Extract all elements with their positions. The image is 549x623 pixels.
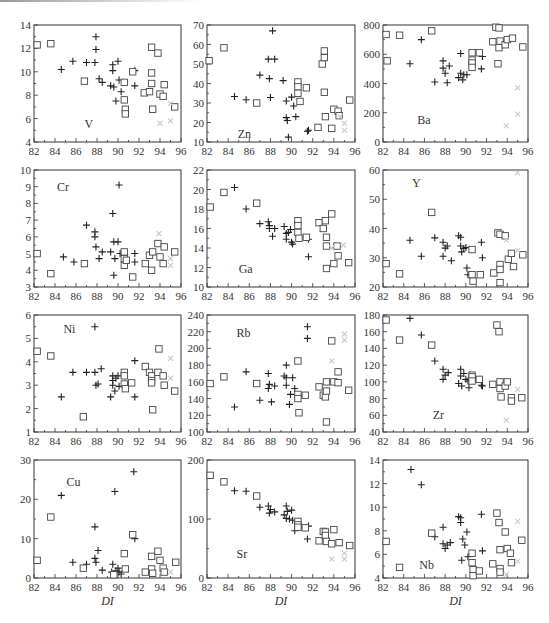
y-tick-label: 60 xyxy=(369,164,381,176)
square-marker xyxy=(316,384,322,390)
square-marker xyxy=(396,564,402,570)
x-tick-label: 90 xyxy=(286,435,298,447)
y-tick-label: 180 xyxy=(364,309,381,321)
square-marker xyxy=(157,557,163,563)
plus-marker xyxy=(231,487,238,494)
square-marker xyxy=(161,569,167,575)
x-marker xyxy=(342,332,347,337)
y-tick-label: 30 xyxy=(20,454,32,466)
plus-marker xyxy=(131,357,138,364)
square-marker xyxy=(335,369,341,375)
square-marker xyxy=(496,519,502,525)
plus-marker xyxy=(231,184,238,191)
plus-marker xyxy=(431,234,438,241)
y-tick-label: 10 xyxy=(20,164,32,176)
x-marker xyxy=(168,356,173,361)
plus-marker xyxy=(96,75,103,82)
plus-marker xyxy=(109,67,116,74)
plus-marker xyxy=(131,393,138,400)
plus-marker xyxy=(70,258,77,265)
square-marker xyxy=(495,61,501,67)
square-marker xyxy=(470,278,476,284)
y-tick-label: 3 xyxy=(26,379,32,391)
plus-marker xyxy=(130,468,137,475)
element-label: Ga xyxy=(239,262,254,276)
figure: 8284868890929496468101214V82848688909294… xyxy=(0,0,549,623)
x-tick-label: 94 xyxy=(502,581,514,593)
x-tick-label: 94 xyxy=(328,290,340,302)
square-marker xyxy=(490,381,496,387)
x-tick-label: 92 xyxy=(307,290,318,302)
square-marker xyxy=(148,267,154,273)
plus-marker xyxy=(444,79,451,86)
x-tick-label: 84 xyxy=(398,435,410,447)
square-marker xyxy=(494,322,500,328)
square-marker xyxy=(507,550,513,556)
square-marker xyxy=(491,270,497,276)
x-marker xyxy=(329,557,334,562)
x-tick-label: 86 xyxy=(244,290,256,302)
square-marker xyxy=(519,395,525,401)
x-tick-label: 90 xyxy=(113,145,125,157)
panel-ba: 82848688909294960200400600800Ba xyxy=(364,19,535,157)
element-label: Cu xyxy=(67,475,81,489)
plus-marker xyxy=(457,366,464,373)
plus-marker xyxy=(283,98,290,105)
plus-marker xyxy=(111,488,118,495)
x-marker xyxy=(504,572,509,577)
square-marker xyxy=(476,376,482,382)
x-tick-label: 88 xyxy=(265,581,277,593)
plus-marker xyxy=(98,365,105,372)
square-marker xyxy=(161,81,167,87)
plus-marker xyxy=(271,56,278,63)
x-tick-label: 84 xyxy=(50,145,62,157)
y-tick-label: 1 xyxy=(26,426,32,438)
x-tick-label: 88 xyxy=(92,145,104,157)
x-tick-label: 90 xyxy=(460,435,472,447)
plus-marker xyxy=(406,237,413,244)
y-tick-label: 4 xyxy=(26,356,32,368)
plus-marker xyxy=(99,248,106,255)
square-marker xyxy=(122,566,128,572)
plus-marker xyxy=(256,397,263,404)
plot-frame xyxy=(207,315,355,432)
y-tick-label: 12 xyxy=(369,478,380,490)
y-tick-label: 10 xyxy=(193,281,205,293)
plus-marker xyxy=(440,253,447,260)
plus-marker xyxy=(458,557,465,564)
x-tick-label: 94 xyxy=(155,581,167,593)
plus-marker xyxy=(281,223,288,230)
square-marker xyxy=(148,44,154,50)
square-marker xyxy=(323,388,329,394)
y-tick-label: 240 xyxy=(188,309,205,321)
square-marker xyxy=(149,407,155,413)
y-tick-label: 10 xyxy=(193,136,205,148)
x-tick-label: 94 xyxy=(328,145,340,157)
square-marker xyxy=(323,419,329,425)
y-tick-label: 30 xyxy=(193,97,205,109)
square-marker xyxy=(253,200,259,206)
plus-marker xyxy=(304,323,311,330)
x-tick-label: 86 xyxy=(244,145,256,157)
square-marker xyxy=(336,539,342,545)
square-marker xyxy=(130,274,136,280)
plus-marker xyxy=(305,127,312,134)
plus-marker xyxy=(92,559,99,566)
x-tick-label: 92 xyxy=(134,145,145,157)
x-tick-label: 90 xyxy=(113,290,125,302)
x-tick-label: 90 xyxy=(286,581,298,593)
x-tick-label: 84 xyxy=(50,581,62,593)
x-tick-label: 96 xyxy=(350,290,362,302)
plus-marker xyxy=(92,46,99,53)
y-tick-label: 100 xyxy=(188,513,205,525)
plus-marker xyxy=(283,382,290,389)
x-tick-label: 96 xyxy=(176,145,188,157)
plus-marker xyxy=(463,71,470,78)
x-tick-label: 88 xyxy=(440,290,452,302)
plus-marker xyxy=(446,62,453,69)
plus-marker xyxy=(83,369,90,376)
plus-marker xyxy=(463,264,470,271)
y-tick-label: 160 xyxy=(364,326,381,338)
y-tick-label: 0 xyxy=(26,572,32,584)
y-tick-label: 8 xyxy=(26,197,32,209)
